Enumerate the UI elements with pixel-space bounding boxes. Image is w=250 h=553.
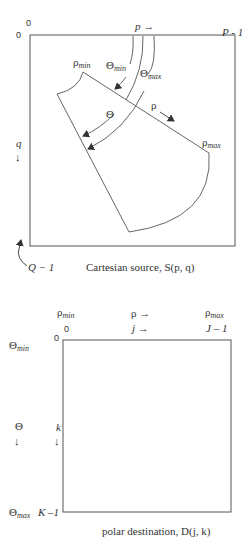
rho-min-label: ρmin (73, 57, 91, 68)
diagram-line-art (0, 0, 250, 553)
dest-row-header-theta-arrow: ↓ (14, 436, 20, 447)
dest-row-index-start: 0 (54, 334, 59, 343)
polar-wedge (57, 72, 209, 232)
dest-col-header-rho-max: ρmax (205, 307, 224, 318)
rho-max-label: ρmax (202, 137, 221, 148)
theta-max-label: Θmax (140, 68, 161, 79)
source-y-end-label: Q − 1 (28, 262, 54, 273)
dest-row-index-axis: k (56, 422, 61, 433)
dest-col-index-axis: j → (132, 323, 149, 334)
dest-col-index-start: 0 (64, 325, 69, 334)
dest-row-header-theta: Θ (15, 421, 23, 432)
theta-min-label: Θmin (106, 60, 126, 71)
theta-label: Θ (106, 109, 114, 120)
destination-caption: polar destination, D(j, k) (102, 526, 210, 537)
source-origin-x-label: 0 (26, 19, 31, 28)
rho-label: ρ (151, 100, 157, 111)
destination-image-frame (63, 340, 231, 512)
dest-col-header-rho-min: ρmin (57, 307, 75, 318)
source-origin-y-label: 0 (16, 31, 21, 40)
theta-arcs (83, 36, 154, 149)
dest-row-index-end: K –1 (38, 507, 59, 518)
dest-row-header-theta-min: Θmin (9, 340, 29, 351)
dest-col-index-end: J – 1 (206, 323, 227, 334)
q-minus-1-pointer (18, 240, 27, 266)
dest-row-header-theta-max: Θmax (9, 507, 30, 518)
source-y-axis-var: q (16, 138, 22, 149)
dest-row-index-arrow: ↓ (54, 436, 60, 447)
source-x-axis-label: p → (135, 21, 154, 32)
rho-direction-arrow (160, 112, 174, 121)
source-x-end-label: P - 1 (222, 27, 243, 38)
source-y-axis-arrow: ↓ (15, 152, 21, 163)
dest-col-header-rho: ρ → (131, 308, 150, 319)
source-caption: Cartesian source, S(p, q) (86, 262, 194, 273)
